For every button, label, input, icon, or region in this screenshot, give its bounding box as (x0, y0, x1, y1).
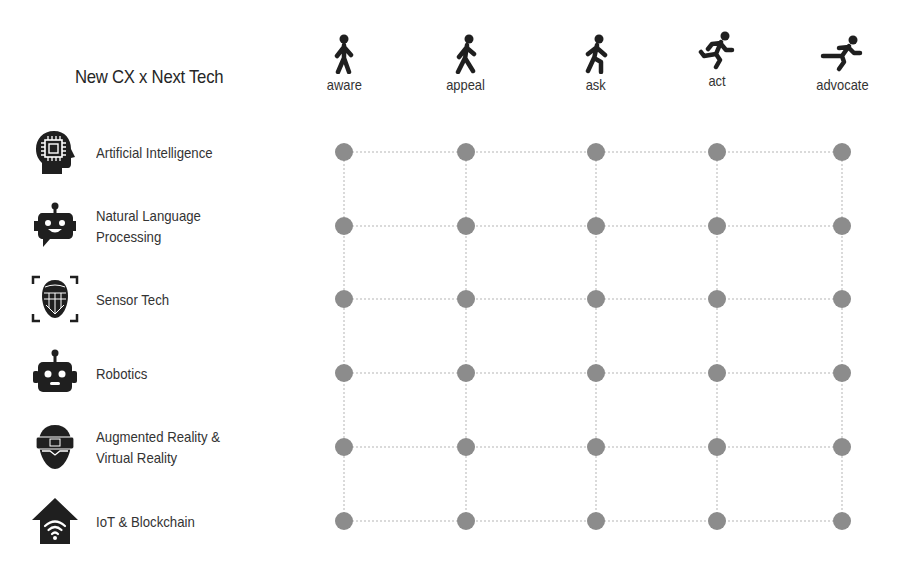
matrix-dot-aware-3 (335, 364, 353, 382)
matrix-dot-appeal-1 (457, 217, 475, 235)
face-scan-icon (30, 274, 80, 324)
vr-headset-icon (30, 422, 80, 472)
matrix-dot-advocate-0 (833, 143, 851, 161)
tech-label: IoT & Blockchain (96, 511, 195, 532)
stage-aware: aware (294, 34, 394, 94)
ai-head-chip-icon (30, 127, 80, 177)
matrix-dot-advocate-4 (833, 438, 851, 456)
matrix-dot-ask-2 (587, 290, 605, 308)
matrix-dot-advocate-3 (833, 364, 851, 382)
smart-home-wifi-icon (30, 496, 80, 546)
matrix-dot-aware-5 (335, 512, 353, 530)
matrix-dot-advocate-2 (833, 290, 851, 308)
stage-label: ask (586, 76, 606, 93)
matrix-dot-ask-5 (587, 512, 605, 530)
tech-label: Natural Language Processing (96, 205, 201, 247)
stage-advocate: advocate (792, 34, 892, 94)
page-title: New CX x Next Tech (75, 66, 223, 88)
matrix-dot-appeal-4 (457, 438, 475, 456)
stage-label: appeal (447, 76, 486, 93)
matrix-dot-act-5 (708, 512, 726, 530)
stage-label: advocate (816, 76, 868, 93)
matrix-dot-ask-0 (587, 143, 605, 161)
sprinting-person-icon (817, 34, 867, 74)
tech-row-ai: Artificial Intelligence (30, 125, 229, 179)
matrix-dot-appeal-3 (457, 364, 475, 382)
matrix-dot-ask-3 (587, 364, 605, 382)
tech-label: Robotics (96, 363, 147, 384)
matrix-dot-appeal-2 (457, 290, 475, 308)
stage-act: act (667, 30, 767, 90)
running-person-icon (695, 30, 739, 70)
matrix-dot-aware-1 (335, 217, 353, 235)
stage-appeal: appeal (416, 34, 516, 94)
tech-row-nlp: Natural Language Processing (30, 199, 215, 253)
tech-row-ar-vr: Augmented Reality & Virtual Reality (30, 420, 237, 474)
matrix-dot-aware-2 (335, 290, 353, 308)
matrix-dot-act-1 (708, 217, 726, 235)
matrix-dot-ask-4 (587, 438, 605, 456)
matrix-dot-appeal-5 (457, 512, 475, 530)
stage-ask: ask (546, 34, 646, 94)
matrix-dot-ask-1 (587, 217, 605, 235)
matrix-dot-act-3 (708, 364, 726, 382)
matrix-dot-appeal-0 (457, 143, 475, 161)
tech-label: Augmented Reality & Virtual Reality (96, 426, 220, 468)
walking-fast-person-icon (579, 34, 613, 74)
stage-label: act (708, 72, 725, 89)
tech-row-robotics: Robotics (30, 346, 154, 400)
matrix-dot-act-4 (708, 438, 726, 456)
tech-row-sensor: Sensor Tech (30, 272, 179, 326)
walking-person-icon (449, 34, 483, 74)
standing-person-icon (327, 34, 361, 74)
tech-label: Sensor Tech (96, 289, 169, 310)
tech-row-iot: IoT & Blockchain (30, 494, 208, 548)
matrix-dot-act-0 (708, 143, 726, 161)
matrix-dot-advocate-1 (833, 217, 851, 235)
matrix-dot-aware-4 (335, 438, 353, 456)
chatbot-icon (30, 201, 80, 251)
robot-icon (30, 348, 80, 398)
matrix-dot-act-2 (708, 290, 726, 308)
stage-label: aware (326, 76, 361, 93)
tech-label: Artificial Intelligence (96, 142, 213, 163)
matrix-dot-aware-0 (335, 143, 353, 161)
matrix-dot-advocate-5 (833, 512, 851, 530)
